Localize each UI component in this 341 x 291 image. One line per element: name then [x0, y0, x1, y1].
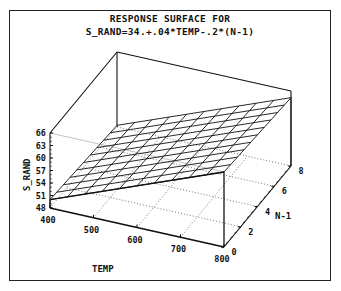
z-tick-label: 54: [36, 178, 46, 188]
x-tick-label: 500: [84, 225, 99, 235]
box-edge: [50, 52, 117, 133]
y-tick-label: 6: [282, 186, 287, 196]
z-axis-label: S_RAND: [22, 158, 32, 191]
z-tick-label: 51: [36, 191, 46, 201]
z-tick-label: 48: [36, 203, 46, 213]
y-tick-label: 8: [298, 166, 303, 176]
bounding-box: [50, 52, 291, 247]
z-tick-label: 66: [36, 128, 46, 138]
y-tick-label: 2: [248, 227, 253, 237]
z-tick-label: 57: [36, 166, 46, 176]
x-tick-label: 600: [127, 235, 142, 245]
x-tick-label: 700: [171, 244, 186, 254]
x-tick-label: 400: [40, 215, 55, 225]
y-axis-label: N-1: [275, 211, 291, 221]
floor-gridline-y: [67, 188, 241, 227]
y-tick-label: 4: [265, 207, 270, 217]
box-edge: [117, 52, 291, 91]
floor-gridline-y: [84, 168, 258, 207]
floor-gridline-x: [181, 156, 248, 237]
x-tick-label: 800: [214, 254, 229, 264]
surface-plot: 4851545760636640050060070080002468 TEMP …: [0, 0, 341, 291]
x-axis-label: TEMP: [92, 264, 114, 274]
z-tick-label: 63: [36, 141, 46, 151]
z-tick-label: 60: [36, 153, 46, 163]
y-tick-label: 0: [231, 247, 236, 257]
